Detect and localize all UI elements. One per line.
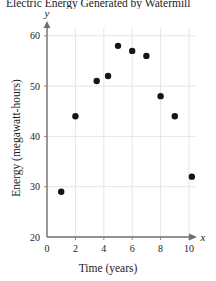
y-axis-arrow-icon [44,21,51,28]
x-axis-arrow-icon [189,234,197,241]
x-tick-label: 6 [130,243,135,254]
y-tick-label: 40 [30,131,40,142]
tick-labels: 02468102030405060 [30,30,194,254]
x-tick-label: 4 [101,243,106,254]
data-point [143,53,149,59]
data-point [157,93,163,99]
scatter-plot-svg: 02468102030405060 x y [0,0,216,281]
x-tick-label: 8 [158,243,163,254]
x-axis-variable-label: x [200,231,206,243]
x-tick-label: 10 [184,243,194,254]
data-point [172,113,178,119]
data-point [105,73,111,79]
data-point [58,189,64,195]
x-tick-label: 0 [45,243,50,254]
data-point [115,43,121,49]
y-tick-label: 50 [30,81,40,92]
y-tick-label: 20 [30,232,40,243]
y-tick-label: 30 [30,181,40,192]
x-tick-label: 2 [73,243,78,254]
plot-area: 02468102030405060 x y [0,0,216,281]
data-point [94,78,100,84]
y-axis-variable-label: y [44,7,50,19]
data-point [72,113,78,119]
data-point [189,173,195,179]
gridlines [47,28,196,237]
data-point [129,48,135,54]
axes [44,21,197,240]
tick-marks [44,36,189,240]
axis-variable-labels: x y [44,7,206,243]
y-tick-label: 60 [30,30,40,41]
data-point-series [58,43,195,195]
chart-figure: Electric Energy Generated by Watermill E… [0,0,216,281]
